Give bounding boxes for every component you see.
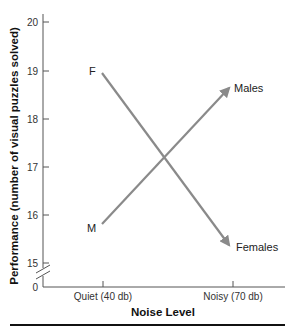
males-line <box>102 88 229 224</box>
y-tick-15: 15 <box>27 258 39 269</box>
y-tick-labels: 20 19 18 17 16 15 0 <box>27 17 39 293</box>
interaction-chart: 20 19 18 17 16 15 0 Quiet (40 db) Noisy … <box>0 0 292 331</box>
y-tick-0: 0 <box>32 282 38 293</box>
females-line <box>102 73 229 245</box>
y-tick-20: 20 <box>27 17 39 28</box>
male-start-label: M <box>87 222 96 234</box>
y-tick-19: 19 <box>27 66 39 77</box>
y-tick-18: 18 <box>27 114 39 125</box>
x-axis-title: Noise Level <box>131 306 195 318</box>
y-axis-title: Performance (number of visual puzzles so… <box>8 27 20 285</box>
males-end-label: Males <box>234 82 264 94</box>
y-tick-17: 17 <box>27 162 39 173</box>
females-end-label: Females <box>236 241 279 253</box>
x-label-noisy: Noisy (70 db) <box>203 291 262 302</box>
y-tick-16: 16 <box>27 210 39 221</box>
x-label-quiet: Quiet (40 db) <box>74 291 132 302</box>
bottom-rule <box>10 324 285 326</box>
y-ticks <box>43 22 49 263</box>
female-start-label: F <box>89 65 96 77</box>
